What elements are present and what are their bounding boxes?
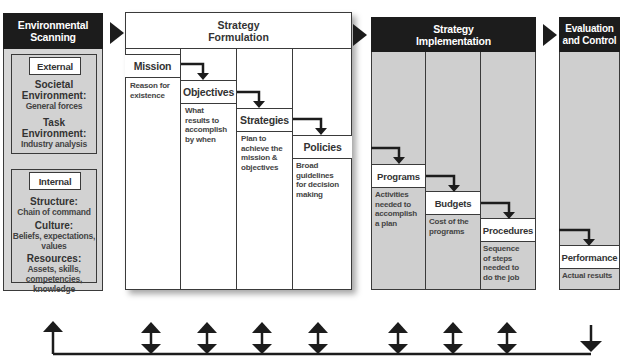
double-arrow-icon [443,322,463,354]
double-arrow-icon [308,322,328,354]
down-arrow-icon [580,325,602,352]
double-arrow-icon [197,322,217,354]
double-arrow-icon [252,322,272,354]
double-arrow-icon [497,322,517,354]
double-arrow-icon [141,322,161,354]
feedback-loop [0,0,624,363]
double-arrow-icon [388,322,408,354]
